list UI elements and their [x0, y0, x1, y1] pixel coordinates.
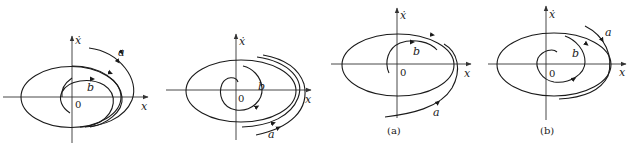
limit-cycle	[497, 33, 611, 96]
x-axis-label: x	[464, 67, 471, 80]
trajectory-b-label: b	[572, 47, 579, 60]
x-axis-label: x	[305, 93, 312, 106]
panel-caption: (a)	[387, 125, 401, 136]
panel-1: a b 0 x ẋ	[3, 34, 148, 143]
origin-label: 0	[75, 99, 81, 110]
panel-3: a b 0 x ẋ (a)	[331, 8, 471, 136]
trajectory-a-label: a	[433, 106, 440, 119]
origin-label: 0	[549, 68, 555, 79]
panel-2: a b 0 x ẋ	[166, 34, 312, 141]
origin-label: 0	[238, 93, 244, 104]
y-axis-label: ẋ	[549, 8, 556, 21]
y-axis-label: ẋ	[400, 9, 407, 22]
trajectory-b	[387, 41, 437, 73]
trajectory-b-label: b	[413, 45, 420, 58]
origin-label: 0	[400, 67, 406, 78]
x-axis-label: x	[619, 66, 626, 79]
y-axis-label: ẋ	[239, 35, 246, 48]
trajectory-a-label: a	[118, 46, 125, 59]
y-axis-label: ẋ	[75, 34, 82, 47]
trajectory-a-label: a	[605, 26, 612, 39]
limit-cycle	[186, 60, 296, 122]
trajectory-b-label: b	[258, 80, 265, 93]
trajectory-a-label: a	[268, 128, 275, 141]
phase-portrait-figure: a b 0 x ẋ a b 0 x ẋ a b 0	[0, 0, 637, 151]
limit-cycle	[342, 34, 454, 96]
trajectory-a	[256, 55, 305, 135]
panel-4: a b 0 x ẋ (b)	[488, 6, 626, 136]
panel-caption: (b)	[540, 125, 554, 136]
trajectory-b-label: b	[87, 81, 94, 94]
x-axis-label: x	[141, 100, 148, 113]
